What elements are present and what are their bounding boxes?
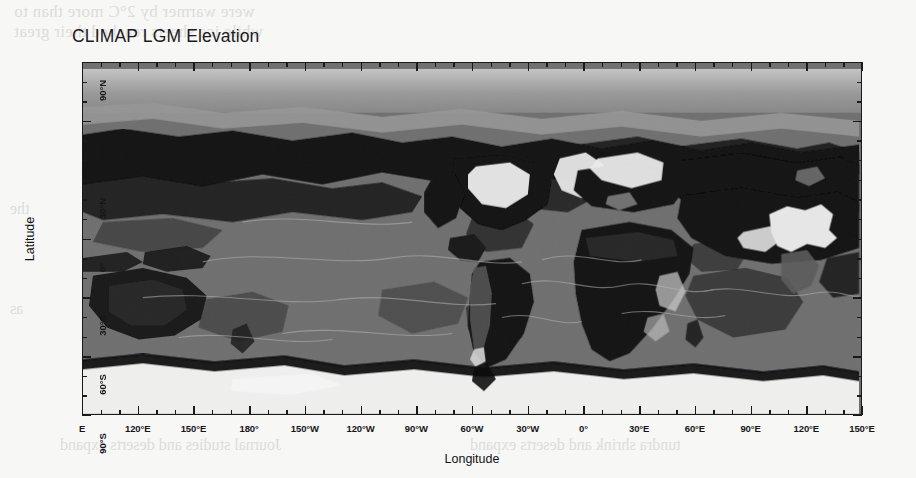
x-tick-minor-top	[546, 62, 547, 67]
x-tick-minor	[101, 410, 102, 415]
y-tick-label: 30°N	[97, 193, 108, 223]
y-tick-label: 90°N	[97, 76, 108, 106]
x-tick-minor	[212, 410, 213, 415]
x-tick-major	[472, 406, 473, 415]
y-tick-label: 60°N	[97, 134, 108, 164]
y-tick-major	[82, 180, 91, 181]
elevation-map	[83, 63, 861, 414]
x-tick-major-top	[528, 62, 529, 71]
y-tick-minor-right	[857, 376, 862, 377]
y-tick-minor	[82, 199, 87, 200]
x-tick-label: 150°E	[181, 423, 207, 434]
y-tick-minor-right	[857, 101, 862, 102]
x-tick-minor-top	[453, 62, 454, 67]
x-tick-minor	[602, 410, 603, 415]
x-tick-minor-top	[825, 62, 826, 67]
x-tick-minor-top	[342, 62, 343, 67]
y-tick-minor-right	[857, 317, 862, 318]
y-tick-major	[82, 297, 91, 298]
x-tick-minor-top	[658, 62, 659, 67]
y-tick-major-right	[853, 415, 862, 416]
x-tick-label: 60°E	[685, 423, 705, 434]
y-tick-minor-right	[857, 219, 862, 220]
x-tick-minor-top	[268, 62, 269, 67]
x-tick-minor	[843, 410, 844, 415]
x-tick-label: 180°	[240, 423, 259, 434]
y-axis-title: Latitude	[23, 207, 37, 271]
y-tick-minor	[82, 140, 87, 141]
x-tick-major-top	[361, 62, 362, 71]
y-tick-major-right	[853, 121, 862, 122]
bleed-text: as	[10, 300, 23, 318]
x-tick-major-top	[583, 62, 584, 71]
x-tick-minor-top	[676, 62, 677, 67]
page-title: CLIMAP LGM Elevation	[72, 26, 259, 47]
y-tick-major-right	[853, 356, 862, 357]
x-tick-minor	[621, 410, 622, 415]
x-tick-major-top	[249, 62, 250, 71]
x-tick-minor-top	[156, 62, 157, 67]
x-tick-major-top	[472, 62, 473, 71]
y-tick-minor	[82, 258, 87, 259]
x-tick-label: 120°E	[125, 423, 151, 434]
x-tick-major-top	[862, 62, 863, 71]
x-tick-major	[416, 406, 417, 415]
x-tick-major	[806, 406, 807, 415]
bleed-text: were warmer by 2°C more than to	[14, 2, 255, 22]
y-tick-major-right	[853, 62, 862, 63]
map-plot-area	[82, 62, 862, 415]
y-tick-major	[82, 239, 91, 240]
x-tick-minor	[713, 410, 714, 415]
y-tick-major-right	[853, 239, 862, 240]
x-tick-major	[361, 406, 362, 415]
x-tick-label: 150°E	[849, 423, 875, 434]
x-tick-minor-top	[621, 62, 622, 67]
y-tick-minor	[82, 395, 87, 396]
x-tick-minor	[286, 410, 287, 415]
x-tick-label: 120°W	[347, 423, 375, 434]
y-tick-major	[82, 62, 91, 63]
x-tick-minor-top	[769, 62, 770, 67]
x-tick-label: 0°	[579, 423, 588, 434]
x-tick-minor	[788, 410, 789, 415]
x-tick-label: 120°E	[794, 423, 820, 434]
y-tick-major	[82, 121, 91, 122]
x-tick-major-top	[639, 62, 640, 71]
x-tick-major	[82, 406, 83, 415]
x-tick-major	[528, 406, 529, 415]
y-tick-minor	[82, 82, 87, 83]
x-tick-minor-top	[509, 62, 510, 67]
x-tick-major-top	[305, 62, 306, 71]
x-tick-label: E	[79, 423, 85, 434]
x-tick-minor	[323, 410, 324, 415]
x-tick-minor-top	[398, 62, 399, 67]
x-tick-label: 30°E	[629, 423, 649, 434]
x-tick-minor	[435, 410, 436, 415]
figure-page: were warmer by 2°C more than to while ic…	[0, 0, 916, 478]
y-tick-major	[82, 356, 91, 357]
x-tick-minor-top	[602, 62, 603, 67]
y-tick-minor-right	[857, 199, 862, 200]
x-tick-major-top	[193, 62, 194, 71]
y-tick-minor-right	[857, 82, 862, 83]
x-tick-minor-top	[379, 62, 380, 67]
x-tick-minor-top	[231, 62, 232, 67]
y-tick-label: 30°S	[97, 311, 108, 341]
x-tick-minor-top	[323, 62, 324, 67]
x-tick-minor-top	[119, 62, 120, 67]
x-tick-minor	[268, 410, 269, 415]
x-tick-major	[138, 406, 139, 415]
y-tick-minor	[82, 376, 87, 377]
y-tick-minor-right	[857, 160, 862, 161]
x-axis-title: Longitude	[445, 452, 500, 466]
x-tick-minor	[156, 410, 157, 415]
bleed-text: Journal studies and deserts expand	[60, 436, 281, 454]
x-tick-minor-top	[843, 62, 844, 67]
x-tick-minor	[676, 410, 677, 415]
x-tick-minor-top	[788, 62, 789, 67]
x-tick-major-top	[138, 62, 139, 71]
y-tick-minor	[82, 278, 87, 279]
x-tick-major-top	[416, 62, 417, 71]
y-tick-major-right	[853, 297, 862, 298]
y-tick-label: 90°S	[97, 429, 108, 459]
